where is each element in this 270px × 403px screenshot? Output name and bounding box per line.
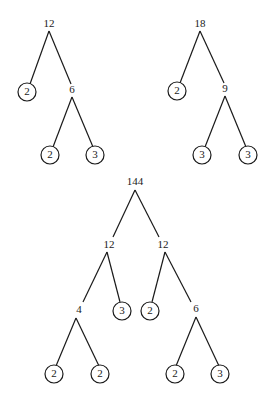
edge	[72, 97, 93, 147]
factor-trees-diagram: 12 2 6 2 3 18 2 9 3 3	[0, 0, 270, 403]
edge	[107, 252, 120, 302]
edge	[56, 318, 76, 366]
edge	[180, 31, 200, 83]
factor-tree-144: 144 12 12 4 3 2 6 2 2 2 3	[45, 175, 229, 383]
edge	[83, 252, 107, 302]
node-label: 144	[127, 175, 144, 187]
prime-label: 2	[24, 85, 30, 97]
edge	[135, 190, 159, 237]
prime-label: 3	[245, 148, 251, 160]
edge	[205, 96, 225, 147]
factor-tree-18: 18 2 9 3 3	[168, 17, 257, 164]
edge	[49, 31, 71, 84]
edge	[200, 31, 224, 83]
node-label: 6	[193, 302, 199, 314]
edge	[152, 252, 165, 302]
node-label: 6	[69, 83, 75, 95]
edge	[53, 97, 72, 147]
prime-label: 3	[92, 148, 98, 160]
prime-label: 3	[119, 304, 125, 316]
prime-label: 2	[174, 84, 180, 96]
factor-tree-12: 12 2 6 2 3	[18, 17, 104, 164]
edge	[196, 317, 219, 366]
node-label: 4	[76, 303, 82, 315]
prime-label: 2	[97, 367, 103, 379]
node-label: 9	[222, 82, 228, 94]
edge	[113, 190, 135, 237]
edge	[165, 252, 191, 302]
edge	[76, 318, 99, 366]
edge	[30, 31, 49, 84]
node-label: 18	[195, 17, 207, 29]
prime-label: 2	[47, 148, 53, 160]
node-label: 12	[44, 17, 55, 29]
prime-label: 2	[172, 367, 178, 379]
prime-label: 2	[51, 367, 57, 379]
prime-label: 3	[199, 148, 205, 160]
prime-label: 3	[217, 367, 223, 379]
prime-label: 2	[147, 304, 153, 316]
edge	[225, 96, 246, 147]
node-label: 12	[158, 238, 169, 250]
edge	[176, 317, 196, 366]
node-label: 12	[104, 238, 115, 250]
